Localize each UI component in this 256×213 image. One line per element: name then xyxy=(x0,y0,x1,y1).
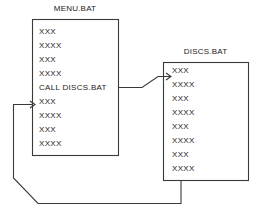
discs-bat-line-list: XXX XXXX XXX XXXX XXX XXXX XXX XXXX xyxy=(172,64,195,176)
list-item: XXXX xyxy=(39,67,107,81)
list-item: XXX xyxy=(39,123,107,137)
list-item: XXX xyxy=(39,25,107,39)
list-item: XXX xyxy=(172,148,195,162)
discs-bat-title: DISCS.BAT xyxy=(163,47,248,56)
list-item-return-source: XXXX xyxy=(172,162,195,176)
flow-diagram: MENU.BAT XXX XXXX XXX XXXX CALL DISCS.BA… xyxy=(0,0,256,213)
list-item: XXX xyxy=(39,53,107,67)
list-item: XXX xyxy=(172,120,195,134)
list-item: XXXX xyxy=(39,137,107,151)
list-item: XXXX xyxy=(39,39,107,53)
call-connector xyxy=(119,77,171,88)
list-item: XXXX xyxy=(172,134,195,148)
menu-bat-title: MENU.BAT xyxy=(32,4,118,13)
list-item: XXXX xyxy=(39,109,107,123)
list-item: XXXX xyxy=(172,106,195,120)
list-item: XXX xyxy=(172,92,195,106)
list-item-call-statement: CALL DISCS.BAT xyxy=(39,81,107,95)
menu-bat-line-list: XXX XXXX XXX XXXX CALL DISCS.BAT XXX XXX… xyxy=(39,25,107,151)
list-item-return-target: XXX xyxy=(39,95,107,109)
list-item: XXXX xyxy=(172,78,195,92)
list-item-call-target: XXX xyxy=(172,64,195,78)
